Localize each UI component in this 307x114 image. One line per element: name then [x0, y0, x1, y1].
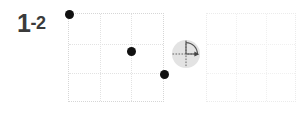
target-grid — [206, 13, 296, 102]
target-grid-hline-2 — [207, 73, 295, 74]
step-label: 1-2 — [17, 11, 45, 36]
target-grid-hline-1 — [207, 44, 295, 45]
source-grid-hline-2 — [69, 73, 163, 74]
source-grid — [68, 13, 164, 102]
target-grid-vline-2 — [266, 14, 267, 101]
source-grid-vline-2 — [131, 14, 132, 101]
rotation-handle[interactable] — [171, 39, 201, 69]
point-center[interactable] — [127, 47, 136, 56]
step-label-major: 1 — [17, 11, 30, 36]
point-top-left[interactable] — [65, 10, 74, 19]
step-label-minor: -2 — [30, 14, 45, 32]
target-grid-vline-1 — [236, 14, 237, 101]
source-grid-vline-1 — [100, 14, 101, 101]
widget-canvas: 1-2 — [0, 0, 307, 114]
source-grid-hline-1 — [69, 44, 163, 45]
point-right-edge[interactable] — [160, 70, 169, 79]
